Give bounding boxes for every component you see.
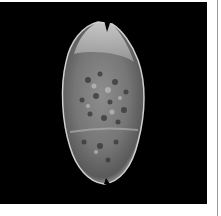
shell-photo: [0, 2, 207, 204]
cowrie-shell-illustration: [0, 2, 207, 204]
divider-line: [217, 0, 218, 216]
